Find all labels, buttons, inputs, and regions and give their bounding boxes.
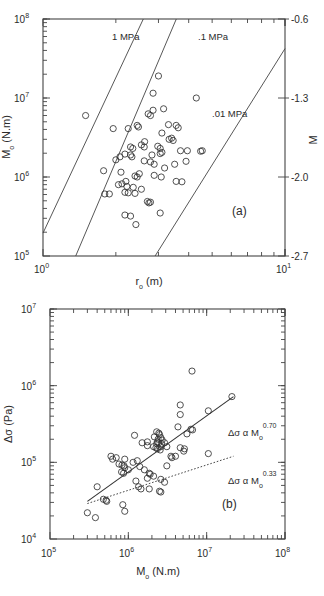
bxtick-2: 107 — [197, 546, 212, 559]
panel-b-svg: Δσ α Mo0.70 Δσ α Mo0.33 105 106 107 108 … — [0, 296, 324, 596]
panel-b: Δσ α Mo0.70 Δσ α Mo0.33 105 106 107 108 … — [0, 296, 324, 596]
panel-b-ytick-labels: 104 105 106 107 — [21, 302, 36, 545]
ytick-label-1e7: 107 — [14, 91, 29, 104]
y2tick-label-0: -0.6 — [291, 14, 309, 25]
bytick-1e5: 105 — [21, 455, 36, 468]
ytick-label-1e6: 106 — [14, 170, 29, 183]
figure-container: 1 MPa .1 MPa .01 MPa 100 101 105 106 107… — [0, 0, 324, 596]
panel-b-ticks — [50, 309, 285, 539]
bytick-1e7: 107 — [21, 302, 36, 315]
panel-a-id-label: (a) — [232, 204, 247, 218]
bxtick-3: 108 — [275, 546, 290, 559]
panel-a-xtick-labels: 100 101 — [34, 262, 291, 275]
annotation-070: Δσ α Mo0.70 — [228, 422, 277, 441]
xtick-label-1: 101 — [276, 262, 291, 275]
bxtick-1: 106 — [119, 546, 134, 559]
panel-a-y2axis-title: M — [307, 135, 319, 144]
stress-label-point01mpa: .01 MPa — [212, 108, 248, 119]
stress-line-point01mpa — [155, 49, 285, 256]
panel-b-frame — [50, 309, 285, 539]
panel-a-ticks — [43, 19, 289, 256]
panel-a-xaxis-title: ro (m) — [135, 275, 162, 290]
panel-a: 1 MPa .1 MPa .01 MPa 100 101 105 106 107… — [0, 0, 324, 290]
panel-b-datapoints — [84, 368, 235, 521]
panel-b-id-label: (b) — [222, 497, 237, 511]
panel-a-ytick-labels: 105 106 107 108 — [14, 12, 29, 262]
panel-b-xaxis-title: Mo (N.m) — [136, 565, 180, 580]
stress-line-point1mpa — [76, 19, 177, 256]
annotation-033: Δσ α Mo0.33 — [228, 470, 277, 489]
y2tick-label-2: -2.0 — [291, 172, 309, 183]
y2tick-label-3: -2.7 — [291, 251, 309, 262]
panel-b-yaxis-title: Δσ (Pa) — [2, 405, 14, 443]
stress-label-point1mpa: .1 MPa — [198, 31, 229, 42]
panel-b-xtick-labels: 105 106 107 108 — [41, 546, 290, 559]
panel-a-svg: 1 MPa .1 MPa .01 MPa 100 101 105 106 107… — [0, 0, 324, 290]
ytick-label-1e8: 108 — [14, 12, 29, 25]
ytick-label-1e5: 105 — [14, 249, 29, 262]
stress-drop-lines — [43, 19, 285, 256]
bytick-1e4: 104 — [21, 532, 36, 545]
panel-a-frame — [43, 19, 285, 256]
stress-line-1mpa — [43, 19, 143, 233]
xtick-label-0: 100 — [34, 262, 49, 275]
stress-label-1mpa: 1 MPa — [112, 31, 140, 42]
y2tick-label-1: -1.3 — [291, 93, 309, 104]
fit-line-033 — [87, 456, 233, 503]
bxtick-0: 105 — [41, 546, 56, 559]
panel-a-yaxis-title: Mo (N.m) — [0, 115, 15, 159]
bytick-1e6: 106 — [21, 379, 36, 392]
